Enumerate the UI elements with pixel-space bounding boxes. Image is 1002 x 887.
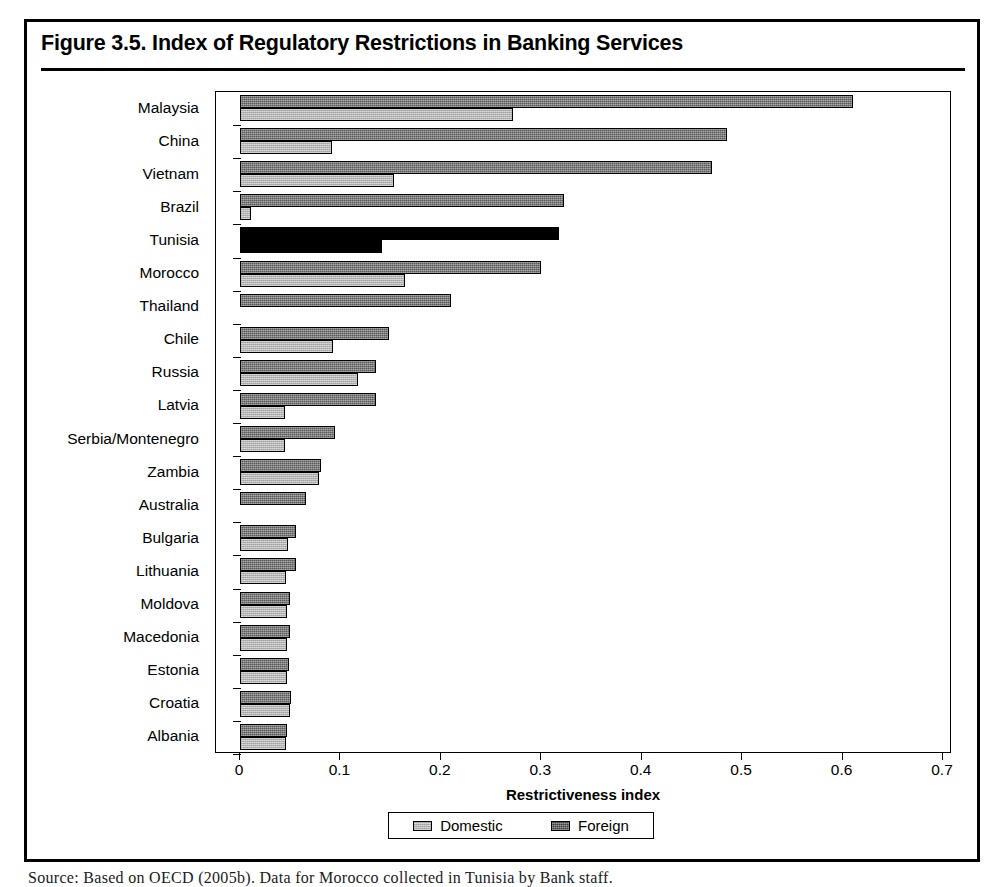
legend-label-foreign: Foreign [578,817,629,834]
bar-domestic [240,439,285,452]
y-axis-label: Zambia [147,463,199,481]
bar-foreign [240,658,289,671]
bar-group [240,655,950,688]
y-axis-label: Latvia [158,396,199,414]
bar-domestic [240,274,405,287]
y-axis-label: Morocco [140,264,199,282]
bars-layer [240,92,950,752]
y-axis-label: Vietnam [142,165,199,183]
bar-foreign [240,194,564,207]
bar-group [240,589,950,622]
bar-foreign [240,95,853,108]
x-axis-tick [540,753,541,760]
x-axis-tick-label: 0.6 [831,761,853,779]
y-axis-label: Macedonia [123,628,199,646]
bar-foreign [240,426,335,439]
y-axis-label: Serbia/Montenegro [67,430,199,448]
x-axis-tick [339,753,340,760]
bar-foreign [240,227,559,240]
bar-group [240,191,950,224]
bar-group [240,324,950,357]
y-axis-label: Thailand [140,297,199,315]
y-axis-label: Moldova [140,595,199,613]
bar-group [240,158,950,191]
bar-domestic [240,240,382,253]
legend-label-domestic: Domestic [440,817,503,834]
bar-foreign [240,261,541,274]
bar-group [240,622,950,655]
title-divider [41,68,965,71]
figure-title: Figure 3.5. Index of Regulatory Restrict… [41,31,683,56]
bar-domestic [240,671,287,684]
bar-group [240,125,950,158]
x-axis-ticks [215,753,951,761]
bar-domestic [240,737,286,750]
bar-group [240,357,950,390]
bar-foreign [240,294,451,307]
bar-group [240,258,950,291]
bar-group [240,224,950,257]
legend-entry-foreign: Foreign [551,817,629,834]
x-axis-tick [440,753,441,760]
bar-group [240,390,950,423]
bar-domestic [240,571,286,584]
bar-foreign [240,724,287,737]
bar-domestic [240,108,513,121]
x-axis-tick [641,753,642,760]
bar-domestic [240,472,319,485]
legend-entry-domestic: Domestic [413,817,503,834]
bar-group [240,688,950,721]
bar-domestic [240,340,333,353]
x-axis-tick-label: 0.7 [931,761,953,779]
bar-domestic [240,638,287,651]
bar-foreign [240,360,376,373]
bar-foreign [240,128,727,141]
bar-group [240,423,950,456]
bar-domestic [240,704,290,717]
bar-foreign [240,492,306,505]
x-axis-tick [942,753,943,760]
y-axis-label: Tunisia [150,231,199,249]
bar-group [240,92,950,125]
bar-foreign [240,625,290,638]
x-axis-tick-label: 0.3 [530,761,552,779]
bar-foreign [240,525,296,538]
y-axis-label: China [159,132,200,150]
x-axis-tick-label: 0.5 [730,761,752,779]
legend-swatch-domestic-icon [413,821,432,831]
y-axis-label: Chile [164,330,199,348]
y-axis-label: Croatia [149,694,199,712]
x-axis-tick-label: 0.1 [329,761,351,779]
bar-domestic [240,141,332,154]
bar-foreign [240,592,290,605]
bar-foreign [240,558,296,571]
y-axis-label: Lithuania [136,562,199,580]
y-axis-labels: MalaysiaChinaVietnamBrazilTunisiaMorocco… [27,91,205,753]
x-axis-tick [741,753,742,760]
x-axis-tick-label: 0.4 [630,761,652,779]
bar-group [240,456,950,489]
y-axis-label: Albania [147,727,199,745]
x-axis-tick-label: 0.2 [429,761,451,779]
y-axis-label: Australia [139,496,199,514]
bar-group [240,489,950,522]
plot-area [215,91,951,753]
bar-domestic [240,406,285,419]
legend-swatch-foreign-icon [551,821,570,831]
bar-group [240,721,950,754]
bar-foreign [240,393,376,406]
bar-foreign [240,459,321,472]
bar-foreign [240,161,712,174]
x-axis-tick-label: 0 [235,761,244,779]
x-axis-tick [239,753,240,760]
bar-foreign [240,691,291,704]
y-axis-label: Bulgaria [142,529,199,547]
y-axis-label: Russia [152,363,199,381]
figure-container: Figure 3.5. Index of Regulatory Restrict… [24,19,980,862]
bar-domestic [240,538,288,551]
bar-foreign [240,327,389,340]
x-axis-tick [842,753,843,760]
chart-legend: Domestic Foreign [388,812,654,839]
y-axis-label: Malaysia [138,99,199,117]
bar-domestic [240,605,287,618]
